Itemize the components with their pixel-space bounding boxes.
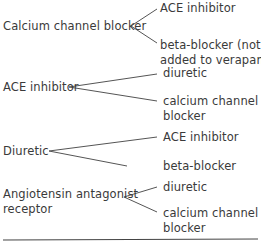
target-blocker: blocker <box>163 109 206 123</box>
target-diuretic-2: diuretic <box>163 180 207 194</box>
source-diuretic: Diuretic <box>3 144 49 158</box>
target-blocker-2: blocker <box>163 221 206 235</box>
target-ace-inhibitor: ACE inhibitor <box>160 1 236 15</box>
source-ace-inhibitor: ACE inhibitor <box>3 80 79 94</box>
target-calcium-channel-2: calcium channel <box>163 206 258 220</box>
source-calcium-channel-blocker: Calcium channel blocker <box>3 19 146 33</box>
target-beta-blocker-2: beta-blocker <box>163 159 236 173</box>
target-beta-blocker: beta-blocker (not <box>160 38 261 52</box>
source-receptor: receptor <box>3 202 52 216</box>
target-calcium-channel: calcium channel <box>163 94 258 108</box>
source-angiotensin-antagonist: Angiotensin antagonist <box>3 187 138 201</box>
target-ace-inhibitor-2: ACE inhibitor <box>163 130 239 144</box>
target-diuretic: diuretic <box>163 66 207 80</box>
target-beta-blocker-note: added to verapamil) <box>160 53 261 67</box>
